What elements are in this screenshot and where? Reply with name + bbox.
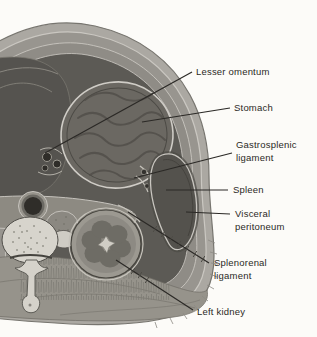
label-left-kidney: Left kidney: [197, 306, 245, 317]
label-gastrosplenic-line1: Gastrosplenic: [236, 139, 297, 150]
label-gastrosplenic-line2: ligament: [236, 152, 274, 163]
label-visceral-line2: peritoneum: [235, 221, 285, 232]
left-kidney-organ: [69, 208, 143, 280]
vertebral-body: [2, 217, 58, 263]
aorta: [19, 192, 48, 221]
label-spleen: Spleen: [233, 184, 264, 195]
abdominal-cross-section-figure: Lesser omentum Stomach Gastrosplenic lig…: [0, 0, 317, 337]
label-splenorenal-line1: Splenorenal: [214, 257, 267, 268]
diagram-canvas: Lesser omentum Stomach Gastrosplenic lig…: [0, 0, 317, 337]
label-splenorenal-line2: ligament: [214, 270, 252, 281]
label-visceral-line1: Visceral: [235, 208, 270, 219]
label-lesser-omentum: Lesser omentum: [196, 66, 270, 77]
label-stomach: Stomach: [234, 102, 273, 113]
spinous-tip-dot: [29, 304, 32, 307]
